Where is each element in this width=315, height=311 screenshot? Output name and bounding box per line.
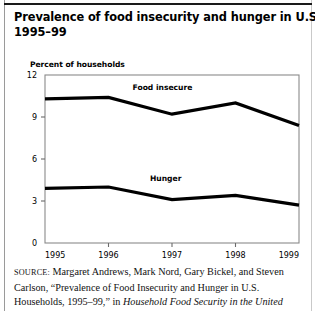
chart-area: 03691219951996199719981999Food insecureH… <box>0 0 315 265</box>
y-tick-label: 9 <box>32 113 37 122</box>
source-line-3-plain: Households, 1995–99,” in <box>14 296 123 307</box>
source-line-1: SOURCE: Margaret Andrews, Mark Nord, Gar… <box>14 265 306 281</box>
x-tick-label: 1997 <box>162 251 182 260</box>
source-line-3-italic: Household Food Security in the United <box>123 296 283 307</box>
source-line-1-text: Margaret Andrews, Mark Nord, Gary Bickel… <box>50 266 284 277</box>
series-label: Food insecure <box>133 83 193 92</box>
y-tick-label: 0 <box>32 239 37 248</box>
line-chart: 03691219951996199719981999Food insecureH… <box>0 0 315 265</box>
y-tick-label: 3 <box>32 197 37 206</box>
x-tick-label: 1998 <box>225 251 245 260</box>
x-tick-label: 1995 <box>45 251 65 260</box>
y-tick-label: 12 <box>27 71 37 80</box>
series-line <box>45 97 299 125</box>
source-line-3: Households, 1995–99,” in Household Food … <box>14 295 306 310</box>
figure-page: Prevalence of food insecurity and hunger… <box>0 0 315 311</box>
y-tick-label: 6 <box>32 155 37 164</box>
series-line <box>45 187 299 205</box>
source-label: SOURCE: <box>14 268 50 277</box>
x-tick-label: 1996 <box>98 251 118 260</box>
source-note: SOURCE: Margaret Andrews, Mark Nord, Gar… <box>14 265 306 310</box>
source-line-2: Carlson, “Prevalence of Food Insecurity … <box>14 281 306 296</box>
x-tick-label: 1999 <box>279 251 299 260</box>
series-label: Hunger <box>150 174 182 183</box>
plot-frame <box>45 75 299 243</box>
